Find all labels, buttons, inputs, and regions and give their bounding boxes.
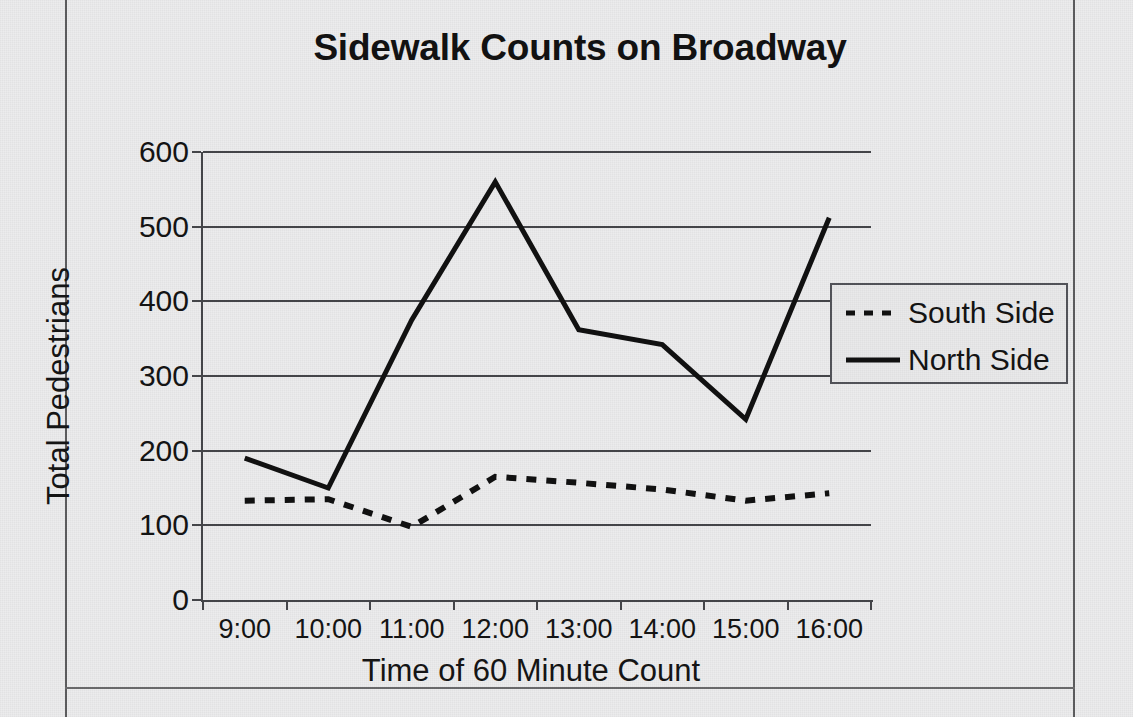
chart-legend: South Side North Side [830,283,1068,384]
x-tick-mark [620,600,622,610]
legend-item-south-side: South Side [832,289,1066,336]
x-tick-mark [536,600,538,610]
x-tick-label: 12:00 [461,614,529,645]
y-axis-title: Total Pedestrians [41,176,77,596]
series-lines [203,152,871,600]
y-tick-label: 100 [139,508,189,542]
y-tick-mark [192,450,201,452]
y-tick-label: 200 [139,434,189,468]
x-tick-label: 13:00 [545,614,613,645]
y-tick-label: 0 [172,583,189,617]
y-tick-mark [192,300,201,302]
y-tick-mark [192,226,201,228]
x-tick-mark [703,600,705,610]
dashed-line-swatch [844,303,902,323]
legend-label-north-side: North Side [908,343,1050,377]
x-axis-title: Time of 60 Minute Count [186,653,876,689]
y-tick-mark [192,151,201,153]
x-tick-label: 16:00 [795,614,863,645]
plot-area: 0100200300400500600 9:0010:0011:0012:001… [203,152,871,600]
y-tick-label: 600 [139,135,189,169]
series-line-north-side [245,182,830,488]
x-tick-mark [870,600,872,610]
chart-title: Sidewalk Counts on Broadway [200,27,960,69]
y-tick-mark [192,599,201,601]
scanned-chart-page: Sidewalk Counts on Broadway Total Pedest… [0,0,1133,717]
x-tick-mark [787,600,789,610]
line-chart: Sidewalk Counts on Broadway Total Pedest… [0,0,1133,717]
legend-label-south-side: South Side [908,296,1055,330]
x-tick-mark [453,600,455,610]
x-tick-label: 10:00 [294,614,362,645]
y-tick-mark [192,524,201,526]
x-tick-label: 14:00 [628,614,696,645]
x-tick-mark [286,600,288,610]
y-tick-mark [192,375,201,377]
x-tick-label: 15:00 [712,614,780,645]
solid-line-swatch [844,350,902,370]
x-tick-mark [369,600,371,610]
x-tick-mark [202,600,204,610]
x-tick-label: 11:00 [379,614,445,645]
y-tick-label: 500 [139,210,189,244]
y-tick-label: 300 [139,359,189,393]
legend-item-north-side: North Side [832,336,1066,383]
y-tick-label: 400 [139,284,189,318]
x-tick-label: 9:00 [218,614,271,645]
